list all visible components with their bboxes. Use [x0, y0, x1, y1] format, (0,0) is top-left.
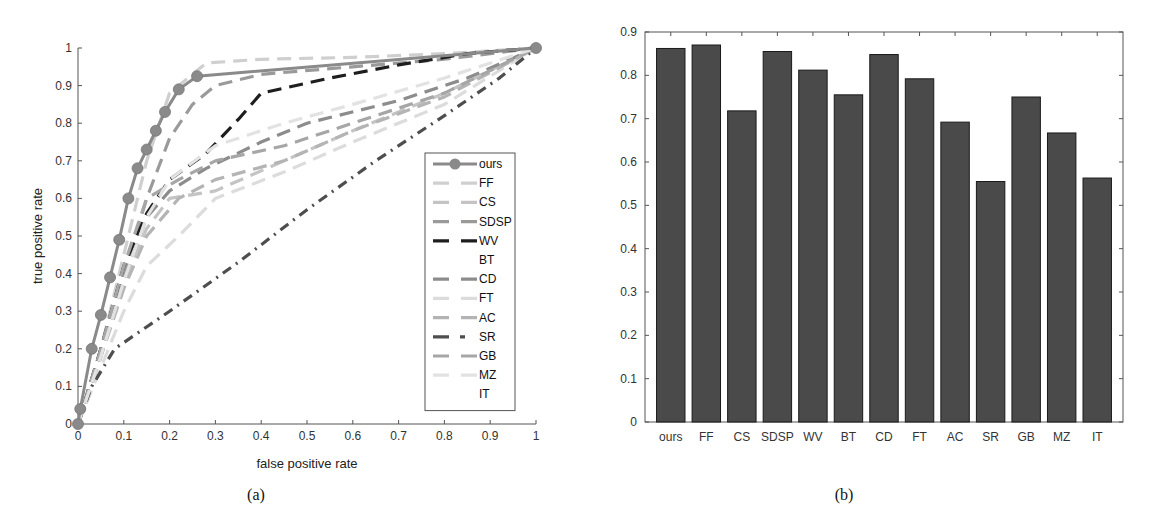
bar-x-label: IT [1092, 430, 1103, 444]
bar-x-label: MZ [1053, 430, 1070, 444]
y-tick-label: 0.3 [620, 285, 637, 299]
roc-x-label: false positive rate [256, 456, 357, 471]
roc-marker [132, 163, 143, 174]
y-tick-label: 1 [65, 41, 72, 55]
bar-ours [657, 48, 685, 422]
roc-marker [114, 234, 125, 245]
roc-marker [95, 309, 106, 320]
y-tick-label: 0.7 [55, 154, 72, 168]
x-tick-label: 0.1 [115, 429, 132, 443]
y-tick-label: 0.5 [620, 198, 637, 212]
legend-label: WV [479, 234, 498, 248]
legend-label: SR [479, 330, 496, 344]
bar-cd [870, 55, 898, 422]
bars [657, 32, 1112, 422]
legend-label: BT [479, 253, 495, 267]
bar-sdsp [763, 52, 791, 423]
roc-marker [531, 43, 542, 54]
y-tick-label: 0 [630, 415, 637, 429]
roc-legend: oursFFCSSDSPWVBTCDFTACSRGBMZIT [425, 153, 515, 411]
bar-ff [692, 45, 720, 422]
roc-marker [150, 125, 161, 136]
roc-marker [86, 343, 97, 354]
bar-x-label: SDSP [761, 430, 794, 444]
bar-x-label: WV [803, 430, 822, 444]
bar-x-labels: oursFFCSSDSPWVBTCDFTACSRGBMZIT [659, 430, 1103, 444]
y-tick-label: 0.8 [620, 68, 637, 82]
y-tick-label: 0.6 [55, 191, 72, 205]
roc-marker [73, 419, 84, 430]
bar-sr [976, 182, 1004, 423]
y-tick-label: 0 [65, 417, 72, 431]
legend-label: AC [479, 311, 496, 325]
x-tick-label: 0.4 [253, 429, 270, 443]
x-tick-label: 0.8 [436, 429, 453, 443]
bar-mz [1047, 133, 1075, 422]
y-tick-label: 0.9 [620, 25, 637, 39]
y-tick-label: 0.1 [55, 379, 72, 393]
bar-cs [728, 111, 756, 422]
x-tick-label: 0.2 [161, 429, 178, 443]
legend-label: FT [479, 291, 494, 305]
x-tick-label: 0.7 [390, 429, 407, 443]
legend-label: GB [479, 349, 496, 363]
legend-box [425, 153, 515, 411]
bar-x-label: ours [659, 430, 682, 444]
bar-x-label: AC [947, 430, 964, 444]
roc-x-ticks: 00.10.20.30.40.50.60.70.80.91 [75, 420, 540, 443]
y-tick-label: 0.5 [55, 229, 72, 243]
legend-label: ours [479, 157, 502, 171]
bar-ft [905, 79, 933, 422]
legend-marker [450, 159, 461, 170]
y-tick-label: 0.2 [620, 328, 637, 342]
bar-wv [799, 70, 827, 422]
x-tick-label: 0.9 [482, 429, 499, 443]
y-tick-label: 0.2 [55, 342, 72, 356]
bar-x-label: CS [734, 430, 751, 444]
bar-x-label: SR [982, 430, 999, 444]
y-tick-label: 0.4 [620, 242, 637, 256]
roc-marker [160, 106, 171, 117]
x-tick-label: 1 [533, 429, 540, 443]
y-tick-label: 0.9 [55, 79, 72, 93]
bar-it [1083, 178, 1111, 422]
roc-chart: 00.10.20.30.40.50.60.70.80.91 00.10.20.3… [30, 41, 542, 504]
legend-label: SDSP [479, 215, 512, 229]
bar-bt [834, 95, 862, 422]
y-tick-label: 0.8 [55, 116, 72, 130]
legend-label: CS [479, 195, 496, 209]
bar-gb [1012, 97, 1040, 422]
y-tick-label: 0.6 [620, 155, 637, 169]
roc-y-label: true positive rate [30, 188, 45, 284]
x-tick-label: 0 [75, 429, 82, 443]
bar-x-label: FF [699, 430, 714, 444]
legend-label: MZ [479, 368, 496, 382]
legend-label: IT [479, 387, 490, 401]
y-tick-label: 0.1 [620, 372, 637, 386]
legend-label: CD [479, 272, 497, 286]
roc-marker [192, 71, 203, 82]
y-tick-label: 0.4 [55, 267, 72, 281]
bar-x-label: CD [875, 430, 893, 444]
bar-chart: 00.10.20.30.40.50.60.70.80.9 oursFFCSSDS… [620, 25, 1123, 504]
bar-x-label: GB [1017, 430, 1034, 444]
x-tick-label: 0.3 [207, 429, 224, 443]
bar-x-label: BT [841, 430, 857, 444]
caption-a: (a) [247, 486, 265, 504]
roc-marker [75, 403, 86, 414]
y-tick-label: 0.7 [620, 112, 637, 126]
roc-marker [173, 84, 184, 95]
legend-label: FF [479, 176, 494, 190]
figure: 00.10.20.30.40.50.60.70.80.91 00.10.20.3… [0, 0, 1152, 519]
x-tick-label: 0.6 [344, 429, 361, 443]
roc-marker [105, 272, 116, 283]
bar-x-label: FT [912, 430, 927, 444]
caption-b: (b) [835, 486, 854, 504]
roc-marker [141, 144, 152, 155]
roc-marker [123, 193, 134, 204]
bar-ac [941, 122, 969, 422]
x-tick-label: 0.5 [299, 429, 316, 443]
y-tick-label: 0.3 [55, 304, 72, 318]
